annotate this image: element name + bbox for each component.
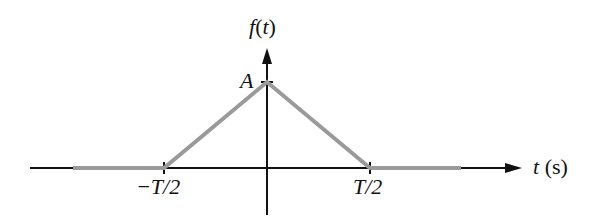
peak-label: A xyxy=(240,68,253,94)
y-axis-label: f(t) xyxy=(249,14,276,40)
x-axis-label: t (s) xyxy=(533,154,568,180)
x-axis-arrow-icon xyxy=(505,163,522,173)
triangle-pulse-diagram xyxy=(0,0,598,218)
tick-label-pos-half-T: T/2 xyxy=(353,174,382,200)
tick-label-neg-half-T: −T/2 xyxy=(136,174,180,200)
y-axis-arrow-icon xyxy=(262,48,272,64)
